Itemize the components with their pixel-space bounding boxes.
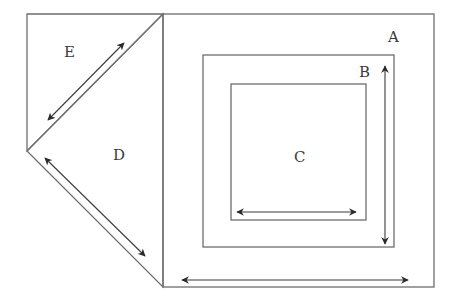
arrow-e [48,43,124,120]
diagram-svg: A B C D E [0,0,457,299]
arrow-d [45,158,145,256]
label-b: B [359,63,370,81]
label-e: E [64,43,75,61]
triangle-d [27,14,163,287]
label-c: C [294,148,305,166]
diagram-canvas: A B C D E [0,0,457,299]
label-a: A [387,28,399,46]
label-d: D [113,146,125,164]
